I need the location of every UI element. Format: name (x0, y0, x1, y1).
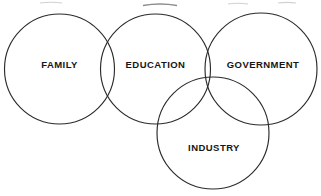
scan-artifact-top-center (143, 4, 177, 6)
scan-artifact-top-far-right (278, 2, 296, 3)
label-education: EDUCATION (126, 60, 186, 70)
label-family: FAMILY (41, 60, 78, 70)
label-government: GOVERNMENT (227, 60, 300, 70)
scan-artifact-top-right (228, 3, 248, 4)
scan-artifacts (40, 2, 296, 5)
scan-artifact-top-left (40, 2, 62, 3)
venn-diagram: FAMILY EDUCATION GOVERNMENT INDUSTRY (0, 0, 321, 196)
label-industry: INDUSTRY (188, 143, 240, 153)
venn-diagram-canvas (0, 0, 321, 196)
venn-circles (5, 13, 318, 189)
circle-industry (157, 77, 269, 189)
